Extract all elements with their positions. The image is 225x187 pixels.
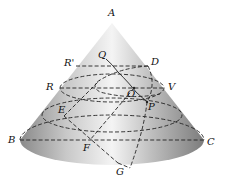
cone-body	[20, 23, 204, 165]
label-Rprime: R'	[63, 57, 74, 68]
label-Q: Q	[98, 49, 106, 60]
label-B: B	[7, 134, 15, 145]
label-D: D	[150, 56, 159, 67]
label-R: R	[45, 81, 54, 92]
label-G: G	[116, 166, 124, 177]
label-E: E	[57, 104, 66, 115]
label-C: C	[207, 136, 215, 147]
label-F: F	[82, 142, 91, 153]
cone-diagram: A Q R' D R V O P E B C F G	[0, 0, 225, 187]
label-P: P	[147, 101, 155, 112]
label-A: A	[107, 7, 115, 18]
label-O: O	[127, 88, 135, 99]
label-V: V	[168, 81, 177, 92]
